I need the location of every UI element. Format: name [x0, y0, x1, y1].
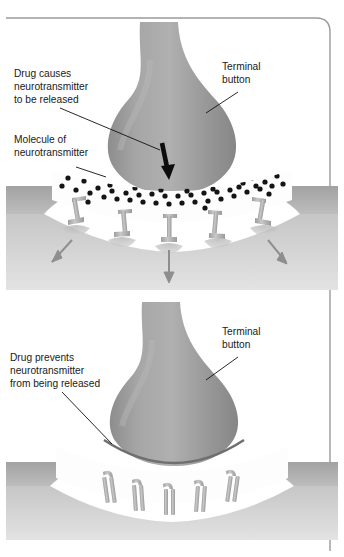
molecule-of-neurotransmitter-label: Molecule of neurotransmitter [14, 127, 89, 158]
drug-causes-release-label: Drug causes neurotransmitter to be relea… [14, 61, 91, 105]
leader-molecule [76, 167, 106, 177]
drug-causes-release-panel: Drug causes neurotransmitter to be relea… [6, 22, 338, 290]
terminal-button-shape-bottom [110, 302, 238, 466]
terminal-button-label-top: Terminal button [222, 54, 263, 85]
drug-prevents-release-panel: Drug prevents neurotransmitter from bein… [6, 302, 338, 540]
terminal-button-label-bottom: Terminal button [222, 319, 263, 350]
terminal-button-bottom [110, 302, 238, 466]
drug-prevents-release-label: Drug prevents neurotransmitter from bein… [10, 345, 100, 389]
diagram-canvas: Drug causes neurotransmitter to be relea… [0, 0, 344, 557]
leader-drug-prevents [62, 392, 112, 444]
leader-terminal-bottom [206, 357, 238, 380]
synapse-diagram-figure: Drug causes neurotransmitter to be relea… [0, 0, 344, 557]
